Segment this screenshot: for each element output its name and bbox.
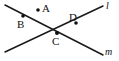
point-label-b: B <box>17 19 24 30</box>
line-label-m: m <box>105 47 112 57</box>
point-dot-a <box>36 8 40 12</box>
geometry-canvas <box>0 0 119 61</box>
point-label-a: A <box>42 3 50 14</box>
point-label-d: D <box>69 12 77 23</box>
line-label-l: l <box>106 1 109 11</box>
geometry-figure: A B C D l m <box>0 0 119 61</box>
point-label-c: C <box>52 36 59 47</box>
lines-group <box>5 5 103 55</box>
